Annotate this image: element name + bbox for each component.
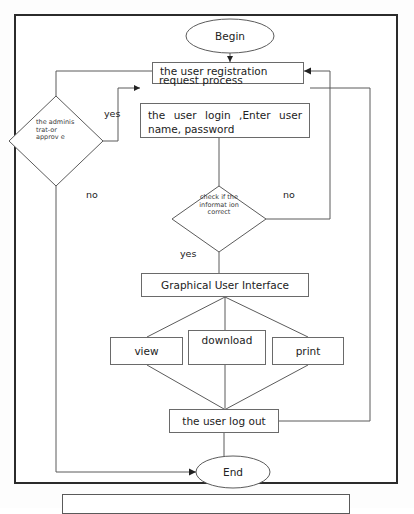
register-label-line2: request process: [159, 74, 309, 86]
edge-label-check-no: no: [283, 189, 295, 200]
begin-node-label: Begin: [186, 19, 274, 53]
print-process-box: print: [272, 337, 344, 365]
view-process-box: view: [110, 337, 183, 365]
view-label: view: [134, 345, 158, 357]
edge-label-admin-yes: yes: [104, 108, 120, 119]
edge-label-admin-no: no: [86, 189, 98, 200]
logout-process-box: the user log out: [169, 409, 279, 433]
gui-process-box: Graphical User Interface: [141, 273, 309, 297]
admin-decision-text: the adminis trat-or approv e: [36, 119, 76, 142]
check-decision-text: check if the informat ion correct: [196, 194, 242, 217]
figure-caption: [62, 494, 350, 514]
logout-label: the user log out: [182, 415, 265, 427]
download-process-box: download: [188, 330, 266, 365]
check-decision-label: check if the informat ion correct: [195, 194, 243, 242]
login-process-box: the user login ,Enter user name, passwor…: [140, 103, 310, 138]
gui-label: Graphical User Interface: [161, 279, 289, 291]
end-node-label: End: [198, 456, 268, 488]
print-label: print: [296, 345, 321, 357]
login-label: the user login ,Enter user name, passwor…: [148, 108, 302, 136]
admin-decision-label: the adminis trat-or approv e: [34, 119, 78, 163]
download-label: download: [202, 334, 253, 346]
edge-label-check-yes: yes: [180, 248, 196, 259]
